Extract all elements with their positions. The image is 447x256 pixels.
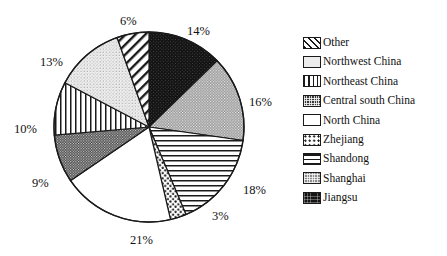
legend-item-label: Zhejiang <box>323 134 364 146</box>
pie-percent-label: 18% <box>243 183 266 198</box>
legend-item-label: Northwest China <box>323 56 401 68</box>
pie-percent-label: 16% <box>249 95 272 110</box>
pie-percent-label: 13% <box>40 55 63 70</box>
legend-swatch-icon <box>303 114 321 126</box>
legend-item-label: Central south China <box>323 95 415 107</box>
legend-item[interactable]: North China <box>303 111 445 130</box>
pie-percent-label: 21% <box>130 233 153 248</box>
legend-item-label: North China <box>323 115 380 127</box>
legend-item[interactable]: Shanghai <box>303 169 445 188</box>
legend-item[interactable]: Northwest China <box>303 52 445 71</box>
legend-swatch-icon <box>303 134 321 146</box>
legend-item-label: Jiangsu <box>323 192 358 204</box>
legend-item[interactable]: Shandong <box>303 149 445 168</box>
pie-chart-graphic <box>0 0 300 256</box>
pie-percent-label: 10% <box>14 122 37 137</box>
legend-swatch-icon <box>303 172 321 184</box>
pie-percent-label: 3% <box>212 209 229 224</box>
legend-swatch-icon <box>303 56 321 68</box>
legend-item-label: Shandong <box>323 153 369 165</box>
legend-item[interactable]: Jiangsu <box>303 188 445 207</box>
pie-percent-label: 9% <box>32 176 49 191</box>
legend-item[interactable]: Zhejiang <box>303 130 445 149</box>
legend-item[interactable]: Central south China <box>303 91 445 110</box>
pie-slices <box>54 32 244 222</box>
pie-percent-label: 6% <box>120 14 137 29</box>
legend-swatch-icon <box>303 153 321 165</box>
legend-swatch-icon <box>303 75 321 87</box>
legend-swatch-icon <box>303 37 321 49</box>
legend-item[interactable]: Northeast China <box>303 72 445 91</box>
chart-legend: OtherNorthwest ChinaNortheast ChinaCentr… <box>303 33 445 208</box>
legend-item-label: Other <box>323 37 349 49</box>
pie-chart-figure: 14%16%18%3%21%9%10%13%6% OtherNorthwest … <box>0 0 447 256</box>
legend-item-label: Northeast China <box>323 76 398 88</box>
legend-swatch-icon <box>303 192 321 204</box>
legend-item[interactable]: Other <box>303 33 445 52</box>
legend-swatch-icon <box>303 95 321 107</box>
legend-item-label: Shanghai <box>323 173 366 185</box>
pie-percent-label: 14% <box>187 24 210 39</box>
